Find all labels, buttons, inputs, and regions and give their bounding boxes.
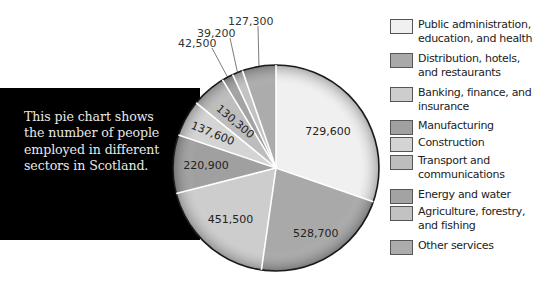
slice-value-label: 127,300: [228, 15, 274, 28]
legend-swatch: [390, 240, 413, 255]
legend-swatch: [390, 155, 413, 170]
legend-label: Manufacturing: [418, 119, 548, 133]
legend-label: Other services: [418, 239, 548, 253]
slice-value-label: 39,200: [197, 27, 236, 40]
legend-swatch: [390, 120, 413, 135]
legend-label: Distribution, hotels,and restaurants: [418, 52, 548, 80]
callout-leader-line: [230, 38, 237, 72]
legend-swatch: [390, 19, 413, 34]
legend-swatch: [390, 53, 413, 68]
legend-label: Public administration,education, and hea…: [418, 18, 548, 46]
legend-label: Energy and water: [418, 188, 548, 202]
legend-swatch: [390, 206, 413, 221]
callout-leader-line: [258, 26, 259, 66]
legend-label: Agriculture, forestry,and fishing: [418, 205, 548, 233]
legend-swatch: [390, 87, 413, 102]
slice-value-label: 220,900: [183, 159, 229, 172]
slice-value-label: 729,600: [305, 125, 351, 138]
slice-value-label: 451,500: [208, 213, 254, 226]
legend-swatch: [390, 189, 413, 204]
callout-leader-line: [212, 48, 228, 77]
legend-swatch: [390, 137, 413, 152]
legend-label: Banking, finance, andinsurance: [418, 86, 548, 114]
slice-value-label: 528,700: [293, 227, 339, 240]
legend-label: Construction: [418, 136, 548, 150]
legend-label: Transport andcommunications: [418, 154, 548, 182]
